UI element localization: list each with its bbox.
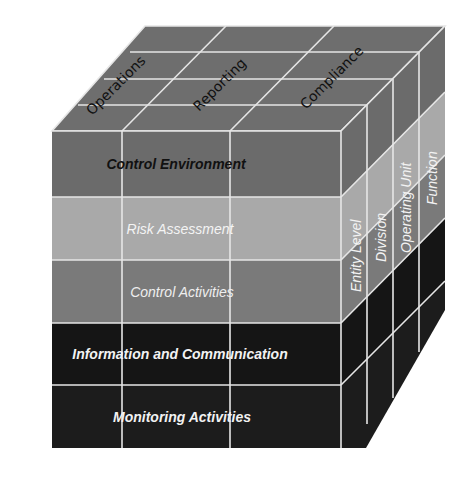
side-label-operating-unit: Operating Unit [398,162,414,253]
label-information-communication: Information and Communication [72,346,287,362]
side-label-entity-level: Entity Level [348,219,364,292]
label-risk-assessment: Risk Assessment [127,221,235,237]
side-label-division: Division [373,213,389,262]
label-control-environment: Control Environment [106,156,247,172]
side-label-function: Function [424,151,440,205]
label-monitoring-activities: Monitoring Activities [113,409,251,425]
coso-cube-diagram: Operations Reporting Compliance Control … [0,0,474,477]
label-control-activities: Control Activities [130,284,234,300]
